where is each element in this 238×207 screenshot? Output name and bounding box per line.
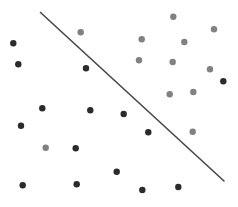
decision-boundary-line [41,13,225,182]
point-class-b [15,61,21,67]
point-class-b [145,129,151,135]
point-class-b [73,145,79,151]
point-class-b [139,187,145,193]
point-class-a [181,39,187,45]
point-class-a [139,36,145,42]
point-class-a [207,66,213,72]
point-class-b [121,111,127,117]
point-class-b [83,65,89,71]
point-class-b [87,107,93,113]
point-class-a [170,14,176,20]
point-class-b [39,105,45,111]
point-class-b [10,40,16,46]
point-class-a [78,29,84,35]
point-class-b [74,181,80,187]
data-points [10,14,226,194]
point-class-a [43,145,49,151]
point-class-b [20,182,26,188]
point-class-b [220,78,226,84]
point-class-b [175,184,181,190]
point-class-a [190,129,196,135]
point-class-a [167,91,173,97]
point-class-b [114,169,120,175]
point-class-b [18,123,24,129]
scatter-diagram [0,0,238,207]
point-class-a [136,57,142,63]
point-class-a [170,59,176,65]
point-class-a [211,26,217,32]
point-class-a [190,89,196,95]
